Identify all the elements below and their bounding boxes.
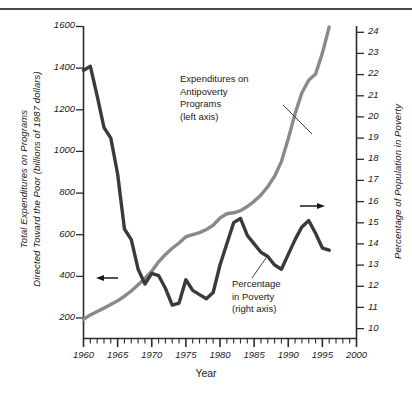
y-right-tick-17: 17 bbox=[368, 173, 386, 184]
y-left-tick-800: 800 bbox=[43, 186, 75, 197]
expenditures-label-line4: (left axis) bbox=[180, 111, 249, 124]
series-group bbox=[84, 27, 330, 319]
chart-svg bbox=[0, 0, 412, 396]
x-axis-tick-2000: 2000 bbox=[337, 349, 377, 360]
poverty-label-line2: in Poverty bbox=[232, 291, 281, 304]
y-right-tick-10: 10 bbox=[368, 322, 386, 333]
y-right-tick-24: 24 bbox=[368, 25, 386, 36]
y-right-tick-16: 16 bbox=[368, 195, 386, 206]
y-right-tick-23: 23 bbox=[368, 46, 386, 57]
y-left-axis-title-line2: Directed Toward the Poor (billions of 19… bbox=[30, 34, 43, 324]
y-left-tick-1600: 1600 bbox=[43, 19, 75, 30]
y-right-tick-12: 12 bbox=[368, 279, 386, 290]
y-right-tick-18: 18 bbox=[368, 152, 386, 163]
arrow-left-icon bbox=[96, 275, 118, 281]
y-left-tick-1200: 1200 bbox=[43, 103, 75, 114]
y-left-tick-1000: 1000 bbox=[43, 144, 75, 155]
y-right-tick-14: 14 bbox=[368, 237, 386, 248]
expenditures-label-line1: Expenditures on bbox=[180, 73, 249, 86]
poverty-leader-line bbox=[252, 258, 266, 278]
y-left-tick-600: 600 bbox=[43, 228, 75, 239]
y-right-ticks bbox=[357, 32, 364, 328]
expenditures-label-line2: Antipoverty bbox=[180, 86, 249, 99]
y-right-tick-15: 15 bbox=[368, 216, 386, 227]
y-left-tick-200: 200 bbox=[43, 311, 75, 322]
y-left-tick-1400: 1400 bbox=[43, 61, 75, 72]
poverty-label-line1: Percentage bbox=[232, 278, 281, 291]
y-right-tick-20: 20 bbox=[368, 110, 386, 121]
figure-container: 1600 1400 1200 1000 800 600 400 200 24 2… bbox=[0, 0, 412, 396]
x-axis-ticks bbox=[84, 339, 357, 347]
expenditures-label-line3: Programs bbox=[180, 98, 249, 111]
poverty-label-line3: (right axis) bbox=[232, 303, 281, 316]
y-right-tick-21: 21 bbox=[368, 89, 386, 100]
arrow-right-icon bbox=[300, 203, 325, 209]
y-right-tick-22: 22 bbox=[368, 67, 386, 78]
y-left-tick-400: 400 bbox=[43, 269, 75, 280]
x-axis-title: Year bbox=[0, 367, 412, 379]
expenditures-label: Expenditures on Antipoverty Programs (le… bbox=[180, 73, 249, 123]
y-right-axis-title: Percentage of Population in Poverty bbox=[392, 37, 403, 327]
poverty-label: Percentage in Poverty (right axis) bbox=[232, 278, 281, 316]
y-left-axis-title: Total Expenditures on Programs Directed … bbox=[17, 34, 43, 324]
y-right-tick-19: 19 bbox=[368, 131, 386, 142]
y-right-tick-13: 13 bbox=[368, 258, 386, 269]
y-left-axis-title-line1: Total Expenditures on Programs bbox=[17, 34, 30, 324]
expenditures-line bbox=[84, 27, 330, 319]
y-right-tick-11: 11 bbox=[368, 301, 386, 312]
